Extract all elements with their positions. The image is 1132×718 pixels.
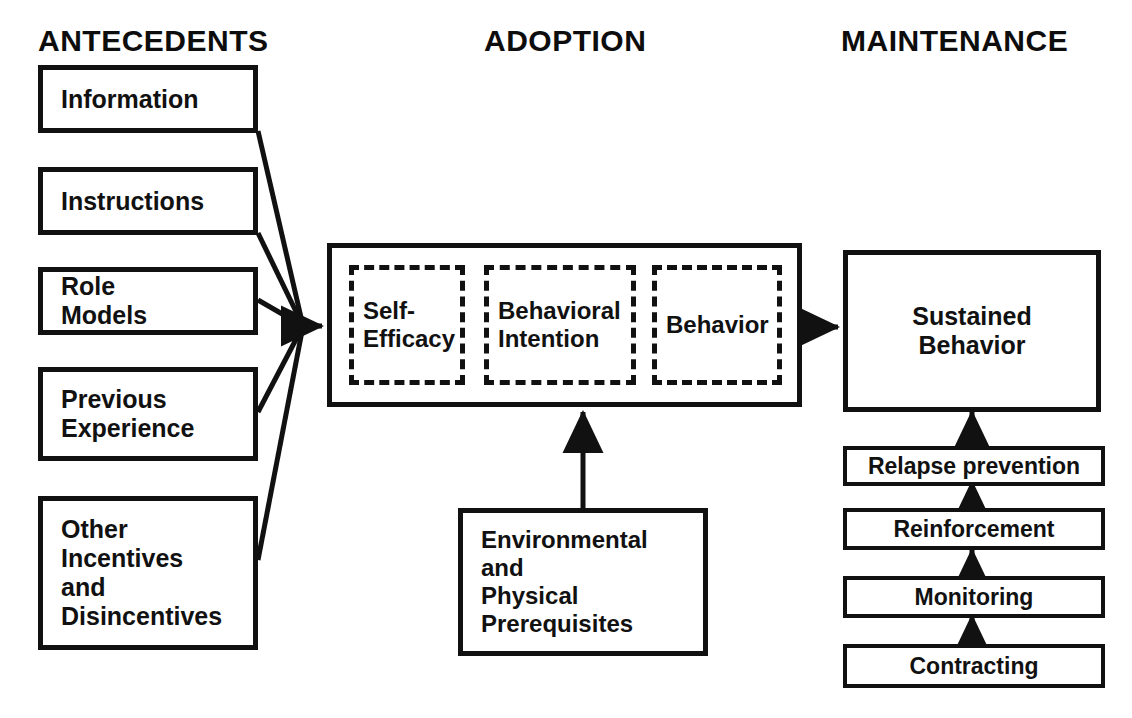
stage-behavioral-intention: Behavioral Intention [484,265,636,385]
box-monitoring: Monitoring [843,576,1105,618]
box-instructions-label: Instructions [43,187,253,216]
box-environmental-physical-prerequisites-label: Environmental and Physical Prerequisites [463,526,703,637]
stage-behavior-label: Behavior [666,311,774,339]
stage-behavioral-intention-label: Behavioral Intention [498,297,628,354]
box-monitoring-label: Monitoring [847,584,1101,611]
column-header-adoption: ADOPTION [484,26,646,56]
box-information: Information [38,65,258,133]
box-sustained-behavior-label: Sustained Behavior [848,302,1096,360]
box-other-incentives-label: Other Incentives and Disincentives [43,515,253,631]
diagram-canvas: ANTECEDENTS ADOPTION MAINTENANCE Informa… [0,0,1132,718]
box-relapse-prevention-label: Relapse prevention [847,453,1101,480]
stage-behavior: Behavior [652,265,782,385]
box-reinforcement: Reinforcement [843,508,1105,550]
box-relapse-prevention: Relapse prevention [843,446,1105,486]
antecedent-converging-lines [258,131,303,560]
box-sustained-behavior: Sustained Behavior [843,250,1101,412]
box-previous-experience-label: Previous Experience [43,385,253,443]
box-reinforcement-label: Reinforcement [847,516,1101,543]
column-header-antecedents: ANTECEDENTS [38,26,269,56]
box-environmental-physical-prerequisites: Environmental and Physical Prerequisites [458,508,708,656]
stage-self-efficacy: Self- Efficacy [349,265,465,385]
box-other-incentives: Other Incentives and Disincentives [38,496,258,650]
box-previous-experience: Previous Experience [38,367,258,461]
box-role-models: Role Models [38,267,258,335]
box-contracting: Contracting [843,644,1105,688]
column-header-maintenance: MAINTENANCE [841,26,1068,56]
box-instructions: Instructions [38,167,258,235]
stage-self-efficacy-label: Self- Efficacy [363,297,457,354]
box-contracting-label: Contracting [847,653,1101,680]
box-information-label: Information [43,85,253,114]
box-role-models-label: Role Models [43,272,253,330]
